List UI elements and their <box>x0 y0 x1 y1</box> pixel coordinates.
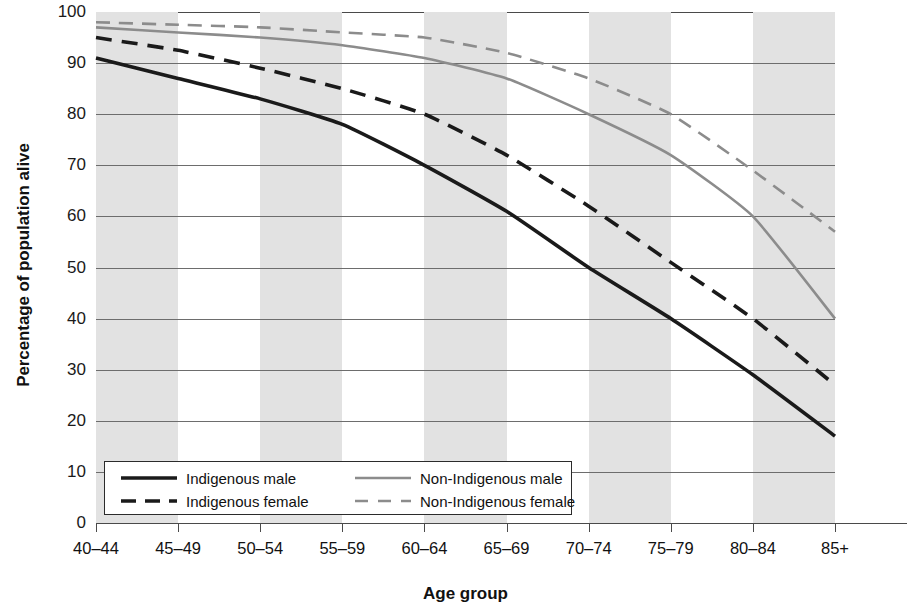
x-axis-tick-mark <box>671 523 672 532</box>
x-axis-tick-mark <box>342 523 343 532</box>
y-axis-tick-label: 10 <box>34 463 86 480</box>
y-axis-tick-label: 70 <box>34 156 86 173</box>
x-axis-tick-label: 40–44 <box>56 539 136 558</box>
data-series-layer <box>96 12 835 523</box>
series-line <box>96 58 835 436</box>
y-axis-tick-label: 0 <box>34 514 86 531</box>
series-line <box>96 27 835 318</box>
legend-line-swatch <box>121 494 177 508</box>
legend-item: Indigenous male <box>121 467 296 489</box>
legend-line-swatch <box>121 471 177 485</box>
x-axis-tick-label: 60–64 <box>384 539 464 558</box>
legend-item: Non-Indigenous female <box>355 490 575 512</box>
x-axis-tick-mark <box>589 523 590 532</box>
legend-item: Indigenous female <box>121 490 309 512</box>
legend-item: Non-Indigenous male <box>355 467 563 489</box>
y-axis-tick-label: 90 <box>34 54 86 71</box>
x-axis-tick-label: 80–84 <box>713 539 793 558</box>
x-axis-tick-label: 65–69 <box>467 539 547 558</box>
y-axis-tick-label: 50 <box>34 259 86 276</box>
legend-label: Indigenous female <box>186 493 309 510</box>
x-axis-tick-mark <box>260 523 261 532</box>
series-line <box>96 22 835 232</box>
legend-label: Indigenous male <box>186 470 296 487</box>
y-axis-tick-label: 80 <box>34 105 86 122</box>
series-line <box>96 38 835 385</box>
x-axis-title: Age group <box>96 584 835 604</box>
x-axis-tick-label: 70–74 <box>549 539 629 558</box>
x-axis-tick-mark <box>507 523 508 532</box>
chart-legend: Indigenous maleIndigenous femaleNon-Indi… <box>104 461 572 515</box>
x-axis-tick-mark <box>753 523 754 532</box>
x-axis-tick-mark <box>96 523 97 532</box>
x-axis-tick-label: 75–79 <box>631 539 711 558</box>
legend-line-swatch <box>355 494 411 508</box>
line-chart: Percentage of population alive 100908070… <box>0 0 907 616</box>
y-axis-tick-labels: 1009080706050403020100 <box>26 0 86 540</box>
x-axis-tick-label: 55–59 <box>302 539 382 558</box>
x-axis-tick-mark <box>424 523 425 532</box>
y-axis-tick-label: 60 <box>34 207 86 224</box>
plot-area <box>96 12 835 523</box>
x-axis-tick-mark <box>835 523 836 532</box>
y-axis-tick-label: 20 <box>34 412 86 429</box>
y-axis-tick-label: 100 <box>34 3 86 20</box>
x-axis-tick-label: 50–54 <box>220 539 300 558</box>
legend-label: Non-Indigenous female <box>420 493 575 510</box>
x-axis-tick-mark <box>178 523 179 532</box>
y-axis-tick-label: 30 <box>34 361 86 378</box>
x-axis-tick-label: 85+ <box>795 539 875 558</box>
x-axis-tick-label: 45–49 <box>138 539 218 558</box>
y-axis-tick-label: 40 <box>34 310 86 327</box>
legend-line-swatch <box>355 471 411 485</box>
legend-label: Non-Indigenous male <box>420 470 563 487</box>
